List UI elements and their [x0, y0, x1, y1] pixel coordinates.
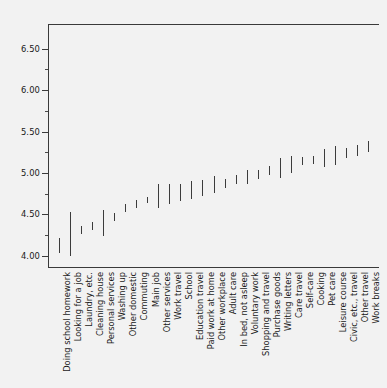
y-tick-minor — [45, 111, 49, 112]
x-tick-label: Education travel — [195, 272, 205, 340]
x-axis-labels: Doing school homeworkLooking for a jobLa… — [48, 272, 379, 388]
y-tick-minor — [45, 69, 49, 70]
error-bar — [302, 157, 303, 165]
x-tick-label: Doing school homework — [62, 272, 72, 372]
x-tick-label: In bed, not asleep — [239, 272, 249, 347]
chart-root: 4.004.505.005.506.006.50 Doing school ho… — [0, 0, 387, 388]
x-tick-label: School — [184, 272, 194, 300]
x-tick-label: Writing letters — [283, 272, 293, 331]
error-bar — [114, 213, 115, 221]
y-tick-major — [42, 49, 48, 50]
x-tick-label-text: Other domestic — [128, 272, 138, 336]
error-bar — [291, 156, 292, 173]
error-bar — [103, 210, 104, 236]
x-tick-label-text: School — [184, 272, 194, 300]
x-tick-label: Civic, etc., travel — [349, 272, 359, 342]
x-tick-label-text: Adult care — [228, 272, 238, 314]
y-tick-minor — [45, 152, 49, 153]
error-bar — [81, 226, 82, 234]
x-tick-label: Other domestic — [128, 272, 138, 336]
x-tick-label: Other travel — [360, 272, 370, 322]
error-bar — [125, 204, 126, 211]
x-tick-label-text: Cooking — [316, 272, 326, 306]
x-tick-label-text: Shopping and travel — [261, 272, 271, 356]
error-bar — [324, 149, 325, 167]
error-bar — [346, 148, 347, 158]
x-tick-label-text: Education travel — [195, 272, 205, 340]
y-tick-minor — [45, 194, 49, 195]
y-tick-major — [42, 214, 48, 215]
x-tick-label: Care travel — [294, 272, 304, 318]
y-tick-label: 5.00 — [21, 168, 40, 178]
x-tick-label-text: Paid work at home — [206, 272, 216, 349]
error-bar — [92, 222, 93, 230]
x-tick-label: Other services — [162, 272, 172, 332]
error-bar — [59, 238, 60, 253]
x-tick-label-text: Work breaks — [371, 272, 381, 323]
error-bar — [258, 170, 259, 178]
x-tick-label: Paid work at home — [206, 272, 216, 349]
x-tick-label-text: Leisure course — [338, 272, 348, 332]
x-tick-label: Laundry, etc. — [84, 272, 94, 327]
y-tick-minor — [45, 235, 49, 236]
x-tick-label-text: Civic, etc., travel — [349, 272, 359, 342]
x-tick-label-text: Laundry, etc. — [84, 272, 94, 327]
error-bar — [368, 141, 369, 153]
x-tick-label-text: Washing up — [117, 272, 127, 320]
error-bar — [357, 145, 358, 157]
error-bar — [147, 197, 148, 204]
x-tick-label-text: Pet care — [327, 272, 337, 306]
x-tick-label-text: Doing school homework — [62, 272, 72, 372]
x-tick-label-text: Work travel — [173, 272, 183, 320]
y-tick-label: 4.00 — [21, 251, 40, 261]
error-bar — [70, 212, 71, 257]
x-tick-label: Personal services — [106, 272, 116, 344]
x-tick-label: Purchase goods — [272, 272, 282, 337]
error-bar — [191, 181, 192, 199]
error-bar — [335, 146, 336, 164]
x-tick-label: Cooking — [316, 272, 326, 306]
error-bar — [158, 184, 159, 208]
x-tick-label: Shopping and travel — [261, 272, 271, 356]
x-tick-label: Commuting — [139, 272, 149, 320]
x-tick-label: Self-care — [305, 272, 315, 308]
error-bar — [236, 175, 237, 183]
x-tick-label: Voluntary work — [250, 272, 260, 334]
y-tick-label: 6.00 — [21, 85, 40, 95]
x-tick-label-text: Writing letters — [283, 272, 293, 331]
x-tick-label: Work breaks — [371, 272, 381, 323]
y-tick-label: 5.50 — [21, 127, 40, 137]
x-tick-label-text: Commuting — [139, 272, 149, 320]
error-bar — [202, 180, 203, 197]
error-bar — [269, 166, 270, 174]
error-bar — [169, 184, 170, 205]
x-tick-label: Pet care — [327, 272, 337, 306]
error-bar — [280, 158, 281, 178]
error-bar — [313, 156, 314, 164]
y-tick-major — [42, 132, 48, 133]
x-tick-label: Washing up — [117, 272, 127, 320]
error-bar — [225, 179, 226, 188]
x-tick-label-text: Purchase goods — [272, 272, 282, 337]
x-tick-label-text: Looking for a job — [73, 272, 83, 341]
error-bar — [136, 200, 137, 207]
x-tick-label: Adult care — [228, 272, 238, 314]
x-tick-label-text: Other services — [162, 272, 172, 332]
x-tick-label-text: In bed, not asleep — [239, 272, 249, 347]
x-tick-label: Work travel — [173, 272, 183, 320]
x-tick-label-text: Personal services — [106, 272, 116, 344]
x-tick-label-text: Main job — [151, 272, 161, 307]
error-bar — [180, 184, 181, 201]
y-tick-major — [42, 90, 48, 91]
x-tick-label: Other workplace — [217, 272, 227, 341]
x-tick-label: Main job — [151, 272, 161, 307]
y-tick-label: 4.50 — [21, 209, 40, 219]
y-tick-label: 6.50 — [21, 44, 40, 54]
y-tick-major — [42, 256, 48, 257]
error-bar — [214, 176, 215, 193]
x-tick-label-text: Self-care — [305, 272, 315, 308]
x-tick-label-text: Care travel — [294, 272, 304, 318]
x-tick-label: Looking for a job — [73, 272, 83, 341]
x-tick-label: Cleaning house — [95, 272, 105, 336]
plot-area: 4.004.505.005.506.006.50 — [48, 24, 379, 268]
